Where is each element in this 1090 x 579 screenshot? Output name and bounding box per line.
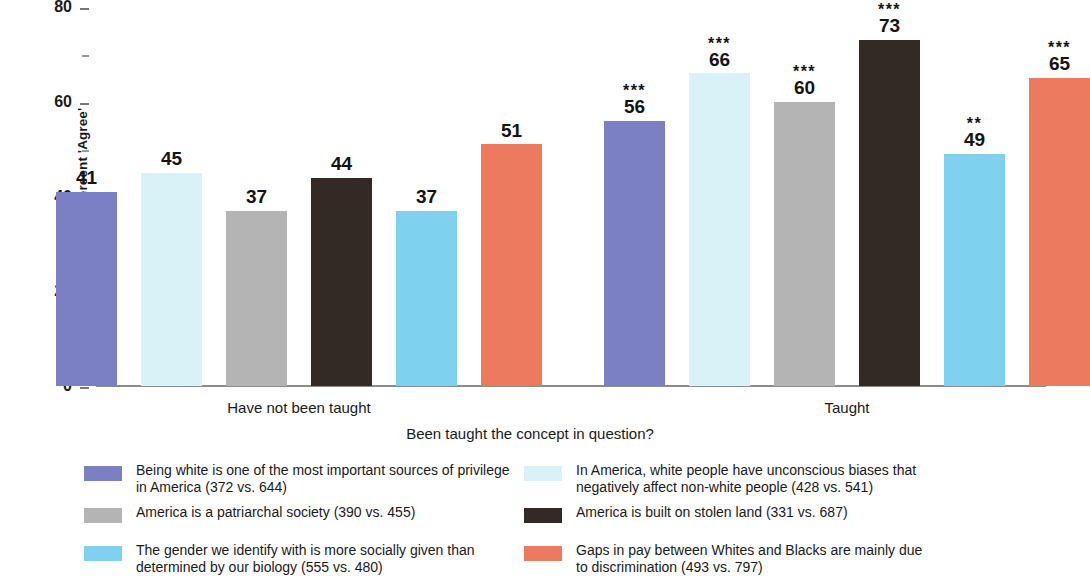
bar-value-number: 65 (1049, 53, 1070, 74)
bar (859, 40, 920, 386)
y-tick-mark-minor (82, 55, 89, 57)
bar-value-label: 37 (396, 187, 457, 207)
bar (689, 73, 750, 386)
bar-value-number: 51 (501, 120, 522, 141)
legend-label: America is built on stolen land (331 vs.… (576, 504, 848, 521)
legend-item: In America, white people have unconsciou… (524, 462, 964, 496)
bar (774, 102, 835, 386)
legend-color-swatch (524, 508, 562, 523)
legend-color-swatch (84, 508, 122, 523)
bar (944, 154, 1005, 386)
y-tick-label: 60 (28, 94, 72, 110)
legend-label: In America, white people have unconsciou… (576, 462, 916, 496)
bar-value-label: ***56 (604, 85, 665, 117)
legend-item: America is a patriarchal society (390 vs… (84, 504, 524, 534)
bar (396, 211, 457, 386)
bar-value-label: 44 (311, 154, 372, 174)
y-tick-mark-major (80, 387, 89, 389)
y-tick-mark-major (80, 8, 89, 10)
bar-value-number: 73 (879, 15, 900, 36)
legend-label: The gender we identify with is more soci… (136, 542, 475, 576)
bar (141, 173, 202, 386)
x-group-label: Taught (697, 399, 997, 416)
legend-color-swatch (84, 466, 122, 481)
legend-column-left: Being white is one of the most important… (84, 462, 524, 579)
y-tick-mark-minor (82, 150, 89, 152)
bar-value-number: 60 (794, 77, 815, 98)
bar (311, 178, 372, 386)
legend-item: America is built on stolen land (331 vs.… (524, 504, 964, 534)
legend-label: Being white is one of the most important… (136, 462, 510, 496)
x-axis-title: Been taught the concept in question? (0, 425, 1060, 442)
legend-column-right: In America, white people have unconsciou… (524, 462, 964, 579)
legend: Being white is one of the most important… (0, 462, 1060, 566)
legend-item: Gaps in pay between Whites and Blacks ar… (524, 542, 964, 576)
bar-value-number: 56 (624, 96, 645, 117)
y-tick-label: 80 (28, 0, 72, 15)
bar-value-label: 37 (226, 187, 287, 207)
bar-value-number: 49 (964, 129, 985, 150)
bar-value-number: 37 (416, 186, 437, 207)
plot-area: 414537443751***56***66***60***73**49***6… (96, 8, 1046, 387)
bar-value-label: 51 (481, 121, 542, 141)
bar-value-number: 45 (161, 148, 182, 169)
bar-value-label: **49 (944, 118, 1005, 150)
legend-item: Being white is one of the most important… (84, 462, 524, 496)
bar (481, 144, 542, 386)
legend-item: The gender we identify with is more soci… (84, 542, 524, 576)
bar-value-number: 41 (76, 167, 97, 188)
y-tick-mark-major (80, 103, 89, 105)
bar-value-label: ***66 (689, 38, 750, 70)
bar (604, 121, 665, 386)
bar-value-number: 66 (709, 49, 730, 70)
bar-value-label: ***60 (774, 66, 835, 98)
bar (56, 192, 117, 386)
legend-color-swatch (84, 546, 122, 561)
x-group-label: Have not been taught (149, 399, 449, 416)
bar-value-label: ***73 (859, 4, 920, 36)
bar (1029, 78, 1090, 386)
bar-value-label: 45 (141, 149, 202, 169)
legend-color-swatch (524, 546, 562, 561)
legend-color-swatch (524, 466, 562, 481)
bar-value-label: 41 (56, 168, 117, 188)
bar-value-number: 37 (246, 186, 267, 207)
legend-label: America is a patriarchal society (390 vs… (136, 504, 415, 521)
legend-label: Gaps in pay between Whites and Blacks ar… (576, 542, 922, 576)
bar (226, 211, 287, 386)
bar-value-number: 44 (331, 153, 352, 174)
bar-value-label: ***65 (1029, 42, 1090, 74)
